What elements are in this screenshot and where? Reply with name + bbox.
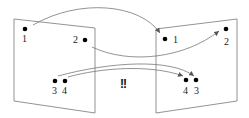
right-point-2 <box>224 27 229 32</box>
exclamation-annotation: !! <box>120 77 126 91</box>
right-label-4: 4 <box>183 86 188 96</box>
right-label-3: 3 <box>194 86 199 96</box>
right-label-1: 1 <box>173 35 178 45</box>
left-point-3 <box>53 79 58 84</box>
right-point-3 <box>194 78 199 83</box>
right-point-1 <box>163 37 168 42</box>
left-point-4 <box>63 79 68 84</box>
left-point-2 <box>83 38 88 43</box>
diagram-canvas <box>0 0 249 118</box>
left-label-1: 1 <box>22 34 27 44</box>
right-label-2: 2 <box>224 37 229 47</box>
arrow-2-to-2 <box>92 31 219 57</box>
left-label-4: 4 <box>62 86 67 96</box>
arrow-1-to-1 <box>33 8 160 33</box>
left-point-1 <box>23 27 28 32</box>
right-point-4 <box>184 78 189 83</box>
left-label-2: 2 <box>73 35 78 45</box>
left-label-3: 3 <box>52 86 57 96</box>
